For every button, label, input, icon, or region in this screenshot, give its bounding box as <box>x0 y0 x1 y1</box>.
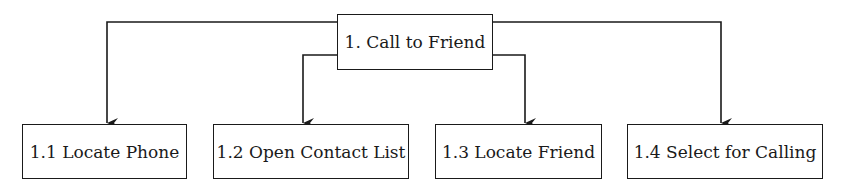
node-locate-friend: 1.3 Locate Friend <box>435 124 602 179</box>
node-open-contact-list: 1.2 Open Contact List <box>213 124 409 179</box>
arrow-to-open-contact-list <box>303 55 337 123</box>
node-select-for-calling: 1.4 Select for Calling <box>627 124 823 179</box>
root-node-call-to-friend: 1. Call to Friend <box>337 14 493 70</box>
node-label: 1.4 Select for Calling <box>634 142 817 162</box>
node-label: 1.3 Locate Friend <box>442 142 595 162</box>
node-locate-phone: 1.1 Locate Phone <box>22 124 187 179</box>
arrow-to-select-for-calling <box>492 22 721 123</box>
node-label: 1.1 Locate Phone <box>30 142 180 162</box>
arrow-to-locate-friend <box>492 55 525 123</box>
root-node-label: 1. Call to Friend <box>345 32 486 52</box>
node-label: 1.2 Open Contact List <box>217 142 406 162</box>
